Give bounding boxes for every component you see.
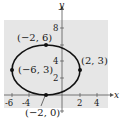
y-tick-label: 8 bbox=[53, 23, 58, 33]
x-axis-label: x bbox=[114, 90, 119, 100]
point-label-left: (−6, 3) bbox=[18, 64, 53, 75]
x-tick-label: 2 bbox=[77, 98, 82, 108]
x-tick-label: -6 bbox=[5, 98, 13, 108]
point-label-top: (−2, 6) bbox=[17, 32, 52, 43]
y-tick-label: 2 bbox=[53, 73, 58, 83]
y-axis-label: y bbox=[58, 0, 65, 10]
point-label-bottom: (−2, 0) bbox=[25, 107, 60, 118]
point-top bbox=[44, 43, 48, 47]
point-right bbox=[78, 68, 82, 72]
x-tick-label: 4 bbox=[94, 98, 99, 108]
y-tick-label: 4 bbox=[53, 56, 58, 66]
point-label-right: (2, 3) bbox=[81, 55, 108, 66]
ellipse-graph: x -6 -4 2 4 y 2 4 8 (−2, 6) (−6, 3) (2, … bbox=[0, 0, 121, 119]
point-left bbox=[10, 68, 14, 72]
